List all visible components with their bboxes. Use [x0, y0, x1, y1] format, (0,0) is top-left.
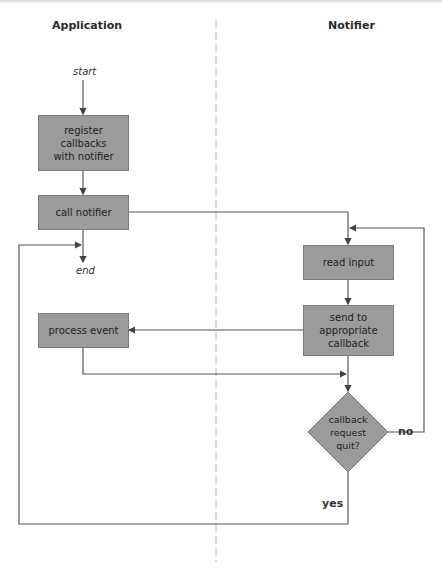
yes-label: yes — [322, 497, 343, 510]
register-callbacks-box: register callbacks with notifier — [38, 115, 129, 171]
flow-connectors — [0, 0, 442, 577]
no-label: no — [398, 425, 413, 438]
read-input-box: read input — [303, 245, 394, 280]
end-terminal: end — [76, 265, 95, 276]
process-event-box: process event — [38, 313, 129, 348]
lane-title-notifier: Notifier — [328, 19, 375, 32]
start-terminal: start — [73, 66, 96, 77]
lane-title-application: Application — [52, 19, 122, 32]
decision-label: callback request quit? — [318, 413, 378, 452]
send-to-callback-box: send to appropriate callback — [303, 305, 394, 356]
call-notifier-box: call notifier — [38, 195, 129, 230]
